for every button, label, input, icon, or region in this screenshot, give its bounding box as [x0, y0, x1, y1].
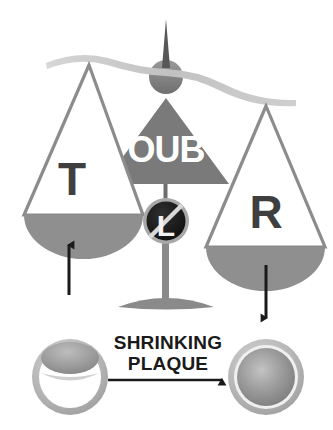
right-pan-label: R: [249, 186, 282, 238]
fulcrum-label: OUB: [128, 129, 205, 170]
badge-label: L: [157, 209, 175, 242]
balance-scale-diagram: OUB T R: [0, 0, 333, 430]
vessel-open-lumen: [228, 339, 304, 415]
caption-line-2: PLAQUE: [128, 353, 208, 374]
vessel-with-plaque: [32, 339, 108, 415]
caption-line-1: SHRINKING: [114, 332, 222, 353]
figure-canvas: OUB T R: [0, 0, 333, 430]
left-pan-label: T: [58, 153, 86, 205]
